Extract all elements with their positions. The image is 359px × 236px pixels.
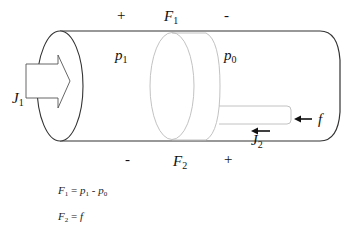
- cylinder-right-end: [320, 31, 340, 141]
- eq2-equals: =: [68, 210, 80, 222]
- piston-body: [172, 33, 220, 140]
- pressure-p1-subscript: 1: [123, 54, 128, 65]
- force-f2-label: F2: [173, 154, 187, 171]
- top-minus-sign: -: [224, 8, 229, 23]
- force-f1-symbol: F: [164, 8, 173, 24]
- piston-face: [150, 33, 194, 140]
- eq1-lhs: F: [58, 184, 65, 196]
- force-f1-label: F1: [164, 9, 178, 26]
- rod-force-arrow-icon: [294, 116, 312, 123]
- equation-f2: F2 = f: [58, 211, 83, 224]
- eq2-lhs: F: [58, 210, 65, 222]
- piston-flow-j2-symbol: J: [251, 132, 258, 148]
- pressure-p0-subscript: 0: [232, 54, 237, 65]
- eq1-minus: -: [89, 184, 98, 196]
- piston-flow-j2-label: J2: [251, 133, 263, 150]
- inflow-j1-label: J1: [12, 91, 24, 108]
- pressure-p1-label: p1: [115, 48, 128, 65]
- pressure-p1-symbol: p: [115, 47, 123, 63]
- force-f2-subscript: 2: [182, 160, 187, 171]
- inflow-j1-subscript: 1: [19, 97, 24, 108]
- piston-cylinder-diagram: [0, 0, 359, 236]
- piston-rod: [219, 106, 291, 124]
- pressure-p0-label: p0: [224, 48, 237, 65]
- rod-force-f-label: f: [318, 112, 322, 127]
- eq2-rhs: f: [80, 210, 83, 222]
- top-plus-sign: +: [117, 8, 125, 23]
- equation-f1: F1 = p1 - p0: [58, 185, 107, 198]
- eq1-rhs-b-sub: 0: [104, 190, 108, 198]
- pressure-p0-symbol: p: [224, 47, 232, 63]
- bottom-plus-sign: +: [224, 152, 232, 167]
- eq1-equals: =: [68, 184, 80, 196]
- bottom-minus-sign: -: [125, 152, 130, 167]
- force-f1-subscript: 1: [173, 15, 178, 26]
- piston-flow-j2-subscript: 2: [258, 139, 263, 150]
- inflow-j1-symbol: J: [12, 90, 19, 106]
- force-f2-symbol: F: [173, 153, 182, 169]
